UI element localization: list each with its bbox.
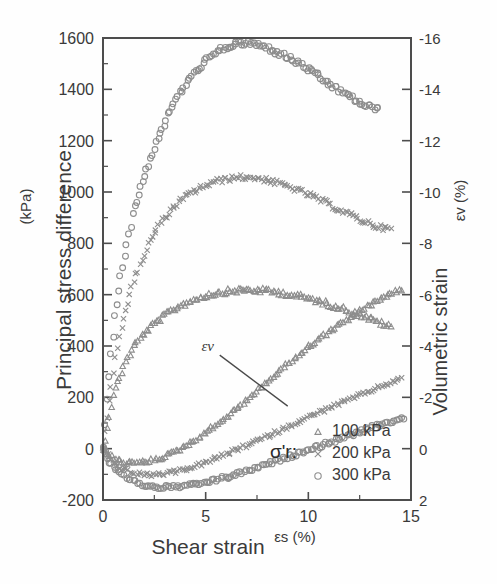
x-tick-label: 0 (99, 508, 108, 525)
y-axis-left-title: Principal stress difference (52, 120, 76, 420)
x-axis-unit: εs (%) (240, 528, 350, 545)
legend-item-label: 100 kPa (332, 422, 391, 439)
x-tick-label: 5 (201, 508, 210, 525)
legend-item-label: 300 kPa (332, 466, 391, 483)
x-tick-label: 10 (299, 508, 317, 525)
y-tick-label-right: -10 (419, 184, 441, 201)
y-tick-label-right: -12 (419, 133, 441, 150)
y-axis-right-title: Volumetric strain (429, 222, 452, 462)
y-tick-label-right: 0 (419, 441, 427, 458)
y-tick-label-right: -14 (419, 81, 441, 98)
y-axis-left-unit: (kPa) (17, 157, 34, 257)
legend-title: σ'r: (270, 441, 297, 462)
y-tick-label-right: 2 (419, 492, 427, 509)
annotation-label-epsilon-v: εv (201, 338, 214, 354)
y-tick-label-left: 1600 (58, 30, 94, 47)
legend-item-label: 200 kPa (332, 444, 391, 461)
y-axis-right-unit: εv (%) (451, 156, 468, 246)
y-tick-label-left: 1400 (58, 81, 94, 98)
y-tick-label-left: 0 (85, 441, 94, 458)
y-tick-label-left: -200 (62, 492, 94, 509)
y-tick-label-right: -16 (419, 30, 441, 47)
chart-figure: 051015-200020040060080010001200140016002… (0, 0, 497, 584)
x-tick-label: 15 (402, 508, 420, 525)
